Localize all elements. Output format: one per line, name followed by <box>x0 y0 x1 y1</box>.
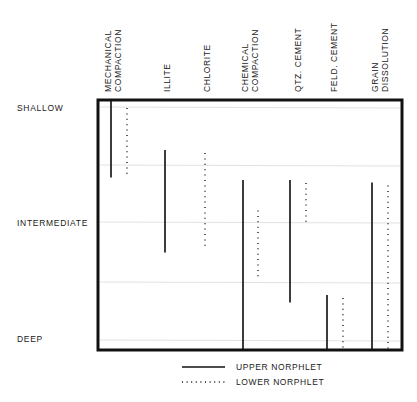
range-segments <box>111 100 388 350</box>
legend-label-lower: LOWER NORPHLET <box>236 377 324 387</box>
depth-label-shallow: SHALLOW <box>17 103 63 113</box>
gridline <box>100 165 400 166</box>
column-label: DISSOLUTION <box>380 28 390 92</box>
column-labels: MECHANICALCOMPACTIONILLITECHLORITECHEMIC… <box>103 22 390 92</box>
legend: UPPER NORPHLET LOWER NORPHLET <box>182 362 324 387</box>
gridline <box>100 340 400 341</box>
depth-label-deep: DEEP <box>17 334 43 344</box>
gridlines <box>100 107 400 341</box>
chart-frame <box>98 100 402 350</box>
column-label: FELD. CEMENT <box>329 22 339 92</box>
legend-label-upper: UPPER NORPHLET <box>236 362 322 372</box>
gridline <box>100 282 400 283</box>
depth-label-intermediate: INTERMEDIATE <box>17 218 88 228</box>
column-label: ILLITE <box>162 63 172 92</box>
column-label: CHEMICAL <box>240 43 250 92</box>
column-label: COMPACTION <box>250 29 260 92</box>
column-label: QTZ. CEMENT <box>293 28 303 92</box>
column-label: MECHANICAL <box>103 30 113 92</box>
column-label: COMPACTION <box>113 29 123 92</box>
column-label: GRAIN <box>370 62 380 92</box>
diagenesis-depth-diagram: MECHANICALCOMPACTIONILLITECHLORITECHEMIC… <box>0 0 417 402</box>
gridline <box>100 107 400 108</box>
gridline <box>100 222 400 223</box>
column-label: CHLORITE <box>202 44 212 92</box>
